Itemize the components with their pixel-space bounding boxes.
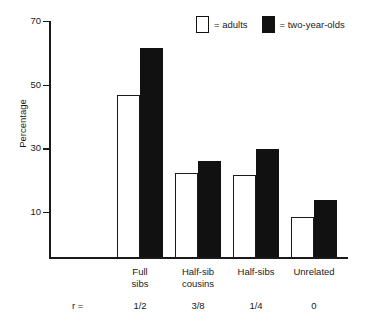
category-label-half-sib-cousins: Half-sib cousins [168,266,228,289]
x-axis-line [49,257,348,259]
category-label-half-sibs: Half-sibs [226,266,286,278]
r-value-half-sib-cousins: 3/8 [168,301,228,311]
y-tick-70 [43,21,50,22]
legend-entry-adults: = adults [196,16,248,33]
bar-adults-full-sibs [117,95,140,257]
legend-swatch-open-square-icon [196,16,209,33]
bar-two-year-olds-half-sibs [256,149,279,257]
bar-two-year-olds-unrelated [314,200,337,257]
y-tick-label-70: 70 [23,16,41,26]
category-label-full-sibs: Full sibs [110,266,170,289]
y-tick-30 [43,148,50,149]
category-label-full-sibs-line2: sibs [110,278,170,290]
y-tick-label-10: 10 [23,207,41,217]
bar-two-year-olds-full-sibs [140,48,163,257]
r-equals-label: r = [72,301,83,311]
r-value-half-sibs: 1/4 [226,301,286,311]
bar-adults-half-sibs [233,175,256,258]
y-tick-50 [43,85,50,86]
category-label-half-sibs-line1: Half-sibs [226,266,286,278]
legend-label-two-year-olds: = two-year-olds [280,20,345,30]
y-axis-line [49,21,51,259]
category-label-half-sib-cousins-line2: cousins [168,278,228,290]
category-label-full-sibs-line1: Full [110,266,170,278]
y-tick-label-30: 30 [23,143,41,153]
y-tick-label-50: 50 [23,80,41,90]
category-label-unrelated-line1: Unrelated [284,266,344,278]
bar-adults-half-sib-cousins [175,173,198,257]
legend-swatch-filled-square-icon [262,16,275,33]
bar-adults-unrelated [291,217,314,258]
bar-chart-figure: = adults = two-year-olds Percentage 70 5… [0,0,367,330]
category-label-unrelated: Unrelated [284,266,344,278]
legend-label-adults: = adults [214,20,248,30]
y-tick-10 [43,212,50,213]
r-value-unrelated: 0 [284,301,344,311]
r-value-full-sibs: 1/2 [110,301,170,311]
chart-legend: = adults = two-year-olds [196,16,345,33]
bar-two-year-olds-half-sib-cousins [198,161,221,257]
category-label-half-sib-cousins-line1: Half-sib [168,266,228,278]
legend-entry-two-year-olds: = two-year-olds [262,16,345,33]
